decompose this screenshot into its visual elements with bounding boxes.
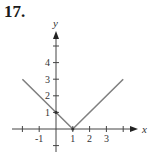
x-tick-label: 2 <box>87 133 92 144</box>
graph: -11231234 x y <box>0 0 152 155</box>
y-tick-label: 1 <box>45 107 50 118</box>
series-line <box>22 79 123 129</box>
x-tick-label: 1 <box>70 133 75 144</box>
y-axis-label: y <box>52 17 58 29</box>
data-point <box>71 127 74 130</box>
y-tick-label: 3 <box>45 74 50 85</box>
y-axis-arrow-icon <box>53 31 59 39</box>
y-tick-label: 4 <box>45 57 50 68</box>
data-point <box>54 111 57 114</box>
x-tick-label: 3 <box>104 133 109 144</box>
x-axis-label: x <box>141 123 147 135</box>
x-axis-arrow-icon <box>130 126 138 132</box>
y-tick-label: 2 <box>45 90 50 101</box>
x-tick-label: -1 <box>35 133 43 144</box>
